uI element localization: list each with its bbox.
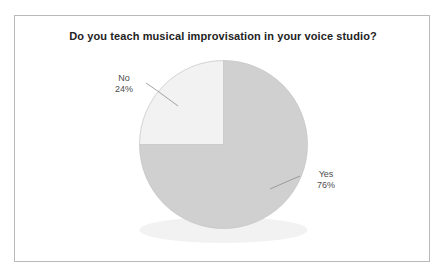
chart-frame: Do you teach musical improvisation in yo… [14,15,430,262]
pie-graphic [15,16,431,263]
pie-label-yes-name: Yes [299,169,353,180]
pie-label-no: No 24% [97,73,151,95]
pie-label-no-name: No [97,73,151,84]
pie-label-yes: Yes 76% [299,169,353,191]
pie-slice-no[interactable] [140,61,224,145]
pie-chart-figure: Do you teach musical improvisation in yo… [0,0,445,278]
pie-label-yes-percent: 76% [299,180,353,191]
pie-label-no-percent: 24% [97,84,151,95]
